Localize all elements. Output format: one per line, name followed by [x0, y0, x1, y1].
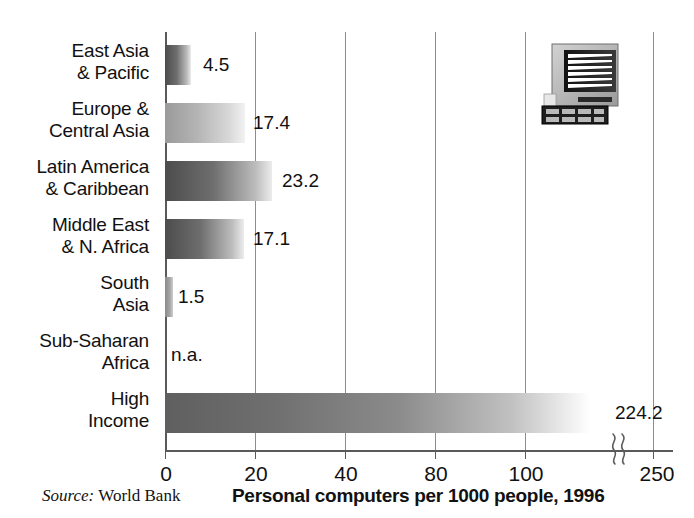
- bar-latin-america-caribbean: [165, 161, 272, 201]
- tick-mark-0: [165, 450, 166, 459]
- bar-value-label: 224.2: [615, 402, 663, 424]
- tick-mark-250: [653, 450, 654, 459]
- tick-mark-40: [345, 450, 346, 459]
- category-label-line: Middle East: [0, 214, 149, 236]
- bar-value-label: 17.1: [253, 228, 290, 250]
- source-note: Source: World Bank: [42, 486, 180, 506]
- category-label-europe-central-asia: Europe & Central Asia: [0, 98, 157, 142]
- tick-mark-100: [525, 450, 526, 459]
- bar-south-asia: [165, 277, 173, 317]
- x-axis-line: [165, 450, 673, 452]
- xtick-label-0: 0: [160, 462, 172, 486]
- category-label-line: Latin America: [0, 156, 149, 178]
- xtick-label-250: 250: [639, 462, 674, 486]
- category-label-line: Europe &: [0, 98, 149, 120]
- category-label-line: Income: [0, 410, 149, 432]
- source-value: World Bank: [98, 486, 180, 505]
- xtick-label-100: 100: [508, 462, 543, 486]
- gridline-100: [525, 32, 526, 450]
- bar-value-label: 1.5: [178, 286, 204, 308]
- tick-mark-20: [255, 450, 256, 459]
- xtick-label-40: 40: [334, 462, 357, 486]
- tick-mark-80: [435, 450, 436, 459]
- category-label-high-income: High Income: [0, 388, 157, 432]
- category-label-south-asia: South Asia: [0, 272, 157, 316]
- category-label-line: High: [0, 388, 149, 410]
- category-label-east-asia-pacific: East Asia & Pacific: [0, 40, 157, 84]
- category-label-line: East Asia: [0, 40, 149, 62]
- desktop-computer-icon: [538, 38, 630, 130]
- category-label-line: & N. Africa: [0, 236, 149, 258]
- chart-title: Personal computers per 1000 people, 1996: [232, 485, 604, 507]
- bar-value-label: 17.4: [253, 112, 290, 134]
- gridline-40: [345, 32, 346, 450]
- category-label-middle-east-n-africa: Middle East & N. Africa: [0, 214, 157, 258]
- bar-middle-east-n-africa: [165, 219, 244, 259]
- bar-value-label: n.a.: [171, 344, 203, 366]
- category-label-line: Central Asia: [0, 120, 149, 142]
- bar-high-income: [165, 393, 590, 433]
- bar-east-asia-pacific: [165, 45, 191, 85]
- bar-value-label: 4.5: [203, 54, 229, 76]
- category-label-line: Africa: [0, 352, 149, 374]
- category-label-line: Asia: [0, 294, 149, 316]
- category-label-latin-america-caribbean: Latin America & Caribbean: [0, 156, 157, 200]
- category-label-line: Sub-Saharan: [0, 330, 149, 352]
- xtick-label-20: 20: [244, 462, 267, 486]
- source-prefix: Source:: [42, 486, 94, 505]
- category-label-sub-saharan-africa: Sub-Saharan Africa: [0, 330, 157, 374]
- bar-chart-figure: 4.5 17.4 23.2 17.1 1.5 n.a. 224.2: [0, 0, 694, 518]
- bar-value-label: 23.2: [282, 170, 319, 192]
- category-label-line: & Pacific: [0, 62, 149, 84]
- gridline-80: [435, 32, 436, 450]
- gridline-250: [653, 32, 654, 450]
- bar-europe-central-asia: [165, 103, 245, 143]
- axis-break-squiggle: [601, 432, 635, 466]
- category-label-line: South: [0, 272, 149, 294]
- xtick-label-80: 80: [424, 462, 447, 486]
- category-label-line: & Caribbean: [0, 178, 149, 200]
